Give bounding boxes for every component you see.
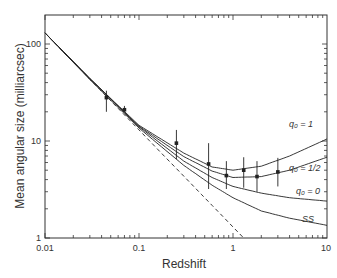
curve-q0-0 [45, 33, 327, 201]
data-point [255, 175, 259, 179]
curve-q0-1-2 [45, 33, 327, 178]
data-point [105, 96, 109, 100]
plot-frame [45, 15, 327, 238]
data-point [207, 162, 211, 166]
x-tick-0.1: 0.1 [133, 243, 146, 253]
x-tick-10: 10 [321, 243, 331, 253]
data-point [123, 108, 127, 112]
axis-ticks [45, 15, 327, 238]
data-point [242, 168, 246, 172]
x-tick-0.01: 0.01 [36, 243, 54, 253]
x-tick-1: 1 [230, 243, 235, 253]
model-curves [45, 33, 327, 238]
y-tick-1: 1 [36, 233, 41, 243]
label-q0-1: q₀ = 1 [289, 119, 313, 129]
label-ss: SS [302, 214, 314, 224]
y-tick-10: 10 [31, 136, 41, 146]
chart: 100 10 1 0.01 0.1 1 10 Redshift Mean ang… [0, 0, 337, 278]
label-q0-0: q₀ = 0 [296, 186, 320, 196]
curve-euclidean [45, 33, 244, 238]
y-tick-100: 100 [26, 39, 41, 49]
data-point [175, 141, 179, 145]
curve-q0-1 [45, 33, 327, 170]
x-axis-title: Redshift [162, 257, 207, 271]
y-axis-title: Mean angular size (milliarcsec) [13, 43, 27, 208]
label-q0-half: q₀ = 1/2 [289, 163, 321, 173]
data-point [276, 170, 280, 174]
data-point [225, 174, 229, 178]
